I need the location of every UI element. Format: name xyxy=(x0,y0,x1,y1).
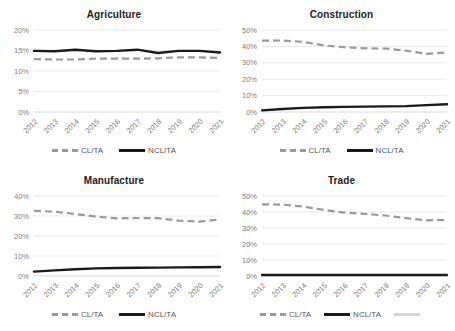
y-tick-label: 10% xyxy=(242,91,257,100)
legend-item-ncl: NCL/TA xyxy=(119,310,176,319)
y-tick-label: 20% xyxy=(242,75,257,84)
x-tick-label: 2017 xyxy=(352,281,370,299)
legend-item-cl: CL/TA xyxy=(52,146,103,155)
y-tick-label: 40% xyxy=(242,208,257,217)
legend-item-cl: CL/TA xyxy=(260,310,311,319)
legend-label-cl: CL/TA xyxy=(81,310,103,319)
y-tick-label: 20% xyxy=(14,232,29,241)
panel-manufacture: Manufacture 0%10%20%30%40%20122013201420… xyxy=(0,166,228,331)
y-tick-label: 0% xyxy=(18,108,29,117)
legend-label-cl: CL/TA xyxy=(289,310,311,319)
y-tick-label: 50% xyxy=(242,26,257,35)
legend-trade: CL/TA NCL/TA xyxy=(228,310,455,319)
y-tick-label: 10% xyxy=(242,256,257,265)
legend-solid-line-icon xyxy=(119,149,145,152)
plot-area-agriculture: 0%5%10%15%20%201220132014201520162017201… xyxy=(0,24,228,146)
x-tick-label: 2012 xyxy=(21,281,39,299)
x-tick-label: 2016 xyxy=(104,281,122,299)
legend-faint-line-icon xyxy=(394,313,420,316)
x-tick-label: 2015 xyxy=(83,117,101,135)
x-tick-label: 2017 xyxy=(125,117,143,135)
y-tick-label: 30% xyxy=(14,212,29,221)
legend-construction: CL/TA NCL/TA xyxy=(228,146,455,155)
legend-manufacture: CL/TA NCL/TA xyxy=(0,310,228,319)
x-tick-label: 2016 xyxy=(331,281,349,299)
y-tick-label: 0% xyxy=(246,272,257,281)
plot-area-trade: 0%10%20%30%40%50%20122013201420152016201… xyxy=(228,190,455,310)
x-tick-label: 2018 xyxy=(373,117,391,135)
x-tick-label: 2021 xyxy=(434,117,452,135)
y-tick-label: 40% xyxy=(14,192,29,201)
x-tick-label: 2014 xyxy=(290,281,308,299)
x-tick-label: 2021 xyxy=(207,281,225,299)
y-tick-label: 50% xyxy=(242,192,257,201)
plot-svg-manufacture: 0%10%20%30%40%20122013201420152016201720… xyxy=(0,190,228,310)
panel-agriculture: Agriculture 0%5%10%15%20%201220132014201… xyxy=(0,0,228,166)
y-tick-label: 30% xyxy=(242,58,257,67)
legend-solid-line-icon xyxy=(324,313,350,316)
legend-label-cl: CL/TA xyxy=(309,146,331,155)
series-line-cl-ta xyxy=(34,57,220,59)
plot-svg-construction: 0%10%20%30%40%50%20122013201420152016201… xyxy=(228,24,455,146)
x-tick-label: 2016 xyxy=(331,117,349,135)
x-tick-label: 2013 xyxy=(42,281,60,299)
y-tick-label: 10% xyxy=(14,252,29,261)
legend-item-cl: CL/TA xyxy=(52,310,103,319)
legend-dashed-line-icon xyxy=(260,313,286,316)
x-tick-label: 2017 xyxy=(125,281,143,299)
y-tick-label: 20% xyxy=(14,26,29,35)
legend-solid-line-icon xyxy=(119,313,145,316)
x-tick-label: 2012 xyxy=(249,117,267,135)
x-tick-label: 2015 xyxy=(311,281,329,299)
series-line-cl-ta xyxy=(262,41,447,54)
x-tick-label: 2016 xyxy=(104,117,122,135)
x-tick-label: 2012 xyxy=(249,281,267,299)
x-tick-label: 2020 xyxy=(187,117,205,135)
x-tick-label: 2014 xyxy=(63,281,81,299)
chart-title-agriculture: Agriculture xyxy=(0,0,228,20)
x-tick-label: 2021 xyxy=(434,281,452,299)
x-tick-label: 2013 xyxy=(270,281,288,299)
legend-solid-line-icon xyxy=(347,149,373,152)
chart-title-trade: Trade xyxy=(228,166,455,186)
y-tick-label: 40% xyxy=(242,42,257,51)
x-tick-label: 2019 xyxy=(393,281,411,299)
chart-title-construction: Construction xyxy=(228,0,455,20)
plot-area-manufacture: 0%10%20%30%40%20122013201420152016201720… xyxy=(0,190,228,310)
legend-label-ncl: NCL/TA xyxy=(148,146,176,155)
legend-label-ncl: NCL/TA xyxy=(148,310,176,319)
x-tick-label: 2019 xyxy=(166,117,184,135)
x-tick-label: 2013 xyxy=(270,117,288,135)
chart-title-manufacture: Manufacture xyxy=(0,166,228,186)
x-tick-label: 2015 xyxy=(83,281,101,299)
panel-construction: Construction 0%10%20%30%40%50%2012201320… xyxy=(228,0,455,166)
plot-area-construction: 0%10%20%30%40%50%20122013201420152016201… xyxy=(228,24,455,146)
series-line-ncl-ta xyxy=(34,50,220,53)
x-tick-label: 2014 xyxy=(290,117,308,135)
x-tick-label: 2012 xyxy=(21,117,39,135)
legend-item-ncl: NCL/TA xyxy=(119,146,176,155)
x-tick-label: 2018 xyxy=(145,281,163,299)
legend-dashed-line-icon xyxy=(52,313,78,316)
y-tick-label: 5% xyxy=(18,87,29,96)
x-tick-label: 2021 xyxy=(207,117,225,135)
y-tick-label: 10% xyxy=(14,67,29,76)
legend-label-ncl: NCL/TA xyxy=(376,146,404,155)
x-tick-label: 2018 xyxy=(145,117,163,135)
y-tick-label: 0% xyxy=(18,272,29,281)
panel-trade: Trade 0%10%20%30%40%50%20122013201420152… xyxy=(228,166,455,331)
y-tick-label: 30% xyxy=(242,224,257,233)
x-tick-label: 2014 xyxy=(63,117,81,135)
plot-svg-agriculture: 0%5%10%15%20%201220132014201520162017201… xyxy=(0,24,228,146)
y-tick-label: 20% xyxy=(242,240,257,249)
legend-label-cl: CL/TA xyxy=(81,146,103,155)
x-tick-label: 2013 xyxy=(42,117,60,135)
legend-dashed-line-icon xyxy=(280,149,306,152)
series-line-ncl-ta xyxy=(262,104,447,110)
y-tick-label: 15% xyxy=(14,46,29,55)
legend-item-ncl: NCL/TA xyxy=(324,310,381,319)
chart-grid: Agriculture 0%5%10%15%20%201220132014201… xyxy=(0,0,455,331)
x-tick-label: 2018 xyxy=(373,281,391,299)
x-tick-label: 2019 xyxy=(166,281,184,299)
legend-item-ncl: NCL/TA xyxy=(347,146,404,155)
